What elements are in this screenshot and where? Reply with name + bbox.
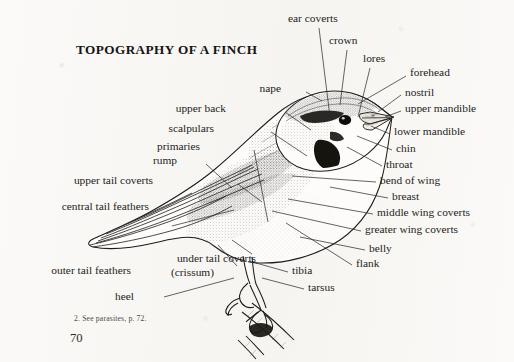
label-tibia: tibia <box>292 264 312 276</box>
label-lower-mandible: lower mandible <box>394 125 465 137</box>
label-heel: heel <box>115 290 134 302</box>
page-title: TOPOGRAPHY OF A FINCH <box>76 42 258 58</box>
label-under-tail-coverts: under tail coverts <box>177 252 256 264</box>
label-forehead: forehead <box>410 66 450 78</box>
label-chin: chin <box>396 142 416 154</box>
footnote: 2. See parasites, p. 72. <box>74 314 147 323</box>
label-greater-wing-coverts: greater wing coverts <box>365 223 458 235</box>
label-scalpulars: scalpulars <box>168 122 214 134</box>
label-primaries: primaries <box>157 140 200 152</box>
page-number: 70 <box>70 331 83 346</box>
label-upper-mandible: upper mandible <box>405 102 476 114</box>
label-throat: throat <box>386 158 413 170</box>
label-outer-tail-feathers: outer tail feathers <box>51 264 131 276</box>
label-lores: lores <box>363 52 385 64</box>
label-middle-wing-coverts: middle wing coverts <box>377 206 470 218</box>
label-upper-tail-coverts: upper tail coverts <box>74 174 153 186</box>
label-nostril: nostril <box>405 86 434 98</box>
label-breast: breast <box>392 190 419 202</box>
label-central-tail-feathers: central tail feathers <box>62 200 149 212</box>
label-flank: flank <box>356 257 379 269</box>
label-upper-back: upper back <box>176 102 226 114</box>
label-belly: belly <box>369 242 392 254</box>
label-ear-coverts: ear coverts <box>288 12 338 24</box>
label-crissum: (crissum) <box>171 266 214 278</box>
book-page: TOPOGRAPHY OF A FINCH ear covertscrownlo… <box>0 0 514 362</box>
label-rump: rump <box>153 154 177 166</box>
label-nape: nape <box>259 82 281 94</box>
finch-eye <box>339 115 351 125</box>
label-bend-of-wing: bend of wing <box>380 174 440 186</box>
label-tarsus: tarsus <box>308 281 335 293</box>
label-crown: crown <box>329 34 357 46</box>
